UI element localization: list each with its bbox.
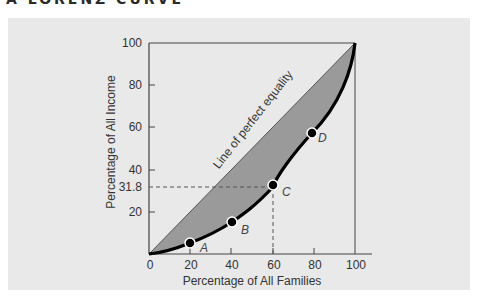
equality-line [149,43,355,254]
x-tick-20: 20 [184,258,198,272]
point-b [227,217,237,227]
x-tick-100: 100 [346,258,366,272]
x-tick-60: 60 [267,258,281,272]
x-tick-0: 0 [147,258,154,272]
x-tick-40: 40 [225,258,239,272]
x-ticks [190,248,314,254]
point-d-label: D [318,131,327,145]
y-tick-100: 100 [122,36,142,50]
lorenz-chart: A B C D 100 80 60 40 31.8 20 0 20 40 60 … [0,0,481,304]
y-tick-80: 80 [129,78,143,92]
y-tick-20: 20 [129,205,143,219]
x-axis-label: Percentage of All Families [183,274,322,288]
point-d [307,128,317,138]
y-tick-60: 60 [129,120,143,134]
point-a-label: A [199,241,208,255]
y-tick-40: 40 [129,163,143,177]
y-axis-label: Percentage of All Income [104,75,118,209]
y-ticks [149,85,155,212]
x-tick-80: 80 [308,258,322,272]
point-b-label: B [241,223,249,237]
point-c-label: C [282,185,291,199]
point-c [268,180,278,190]
point-a [185,238,195,248]
y-tick-31-8: 31.8 [119,180,143,194]
